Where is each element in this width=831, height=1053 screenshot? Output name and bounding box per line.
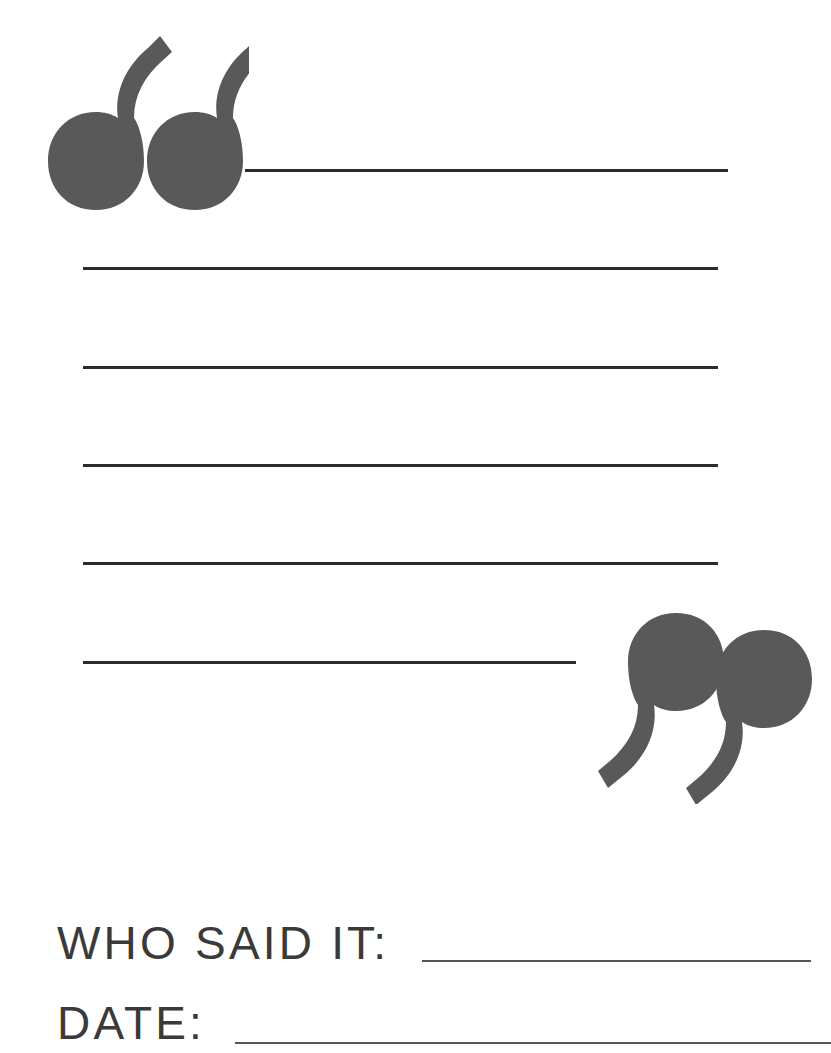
- writing-line-3[interactable]: [83, 366, 718, 369]
- opening-quotation-mark-icon: [44, 30, 249, 210]
- quote-worksheet-page: WHO SAID IT: DATE:: [0, 0, 831, 1053]
- who-said-it-field: WHO SAID IT:: [57, 920, 389, 966]
- writing-line-1[interactable]: [245, 169, 728, 172]
- closing-quotation-mark-icon: [596, 608, 816, 804]
- writing-line-4[interactable]: [83, 464, 718, 467]
- date-input-line[interactable]: [235, 1042, 831, 1044]
- date-field: DATE:: [57, 1000, 205, 1046]
- writing-line-2[interactable]: [83, 267, 718, 270]
- who-said-it-input-line[interactable]: [422, 960, 811, 962]
- writing-line-6[interactable]: [83, 661, 576, 664]
- date-label: DATE:: [57, 1000, 205, 1046]
- writing-line-5[interactable]: [83, 562, 718, 565]
- who-said-it-label: WHO SAID IT:: [57, 920, 389, 966]
